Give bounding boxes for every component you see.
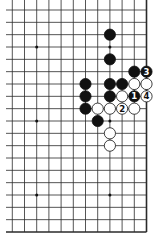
move-number-label: 3 — [144, 67, 150, 77]
white-stone-disc — [104, 103, 115, 114]
black-stone-disc — [104, 78, 115, 89]
black-stone — [104, 54, 115, 65]
black-stone-disc — [80, 78, 91, 89]
white-stone — [141, 78, 152, 89]
black-stone — [129, 66, 140, 77]
white-stone — [129, 78, 140, 89]
move-number-label: 2 — [119, 104, 125, 114]
star-point — [108, 46, 111, 49]
black-stone-disc — [80, 91, 91, 102]
black-stone-disc — [117, 78, 128, 89]
black-stone-disc — [104, 91, 115, 102]
black-stone — [104, 29, 115, 40]
star-point — [35, 120, 38, 123]
black-stone-disc — [104, 29, 115, 40]
white-stone-disc — [104, 128, 115, 139]
white-stone-move-2: 2 — [117, 103, 128, 114]
white-stone-disc — [104, 140, 115, 151]
black-stone-move-3: 3 — [141, 66, 152, 77]
black-stone — [80, 103, 91, 114]
go-board-diagram: 3142 — [0, 0, 156, 243]
star-point — [35, 46, 38, 49]
black-stone — [117, 78, 128, 89]
white-stone-disc — [141, 78, 152, 89]
black-stone — [92, 115, 103, 126]
white-stone — [92, 103, 103, 114]
white-stone — [104, 128, 115, 139]
white-stone-disc — [92, 103, 103, 114]
white-stone-disc — [129, 103, 140, 114]
move-number-label: 4 — [144, 91, 150, 101]
black-stone-disc — [129, 66, 140, 77]
black-stone-move-1: 1 — [129, 91, 140, 102]
star-point — [35, 194, 38, 197]
black-stone — [104, 78, 115, 89]
board-grid — [6, 0, 147, 232]
black-stone-disc — [92, 115, 103, 126]
white-stone — [117, 91, 128, 102]
white-stone — [104, 103, 115, 114]
black-stone — [104, 91, 115, 102]
black-stone-disc — [80, 103, 91, 114]
black-stone — [80, 91, 91, 102]
white-stone-disc — [129, 78, 140, 89]
star-point — [108, 120, 111, 123]
black-stone-disc — [104, 54, 115, 65]
black-stone — [80, 78, 91, 89]
move-number-label: 1 — [131, 91, 137, 101]
white-stone-disc — [117, 91, 128, 102]
white-stone — [104, 140, 115, 151]
star-point — [108, 194, 111, 197]
white-stone — [129, 103, 140, 114]
white-stone-move-4: 4 — [141, 91, 152, 102]
